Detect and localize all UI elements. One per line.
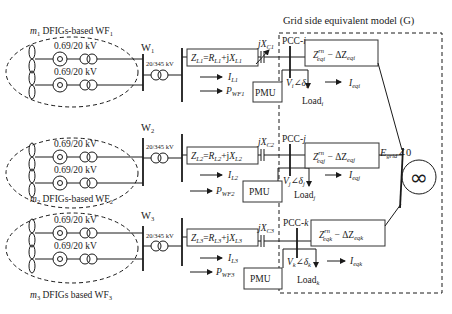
eq-current-label: Ieqk bbox=[349, 256, 362, 267]
generator-icon bbox=[53, 150, 67, 164]
wind-farm-row-2: m2 DFIGs-based WF2 0.69/20 kV 0.69/20 kV… bbox=[6, 122, 402, 208]
capacitor-label: jXC1 bbox=[256, 39, 274, 50]
generator-icon bbox=[53, 52, 67, 66]
wind-farm-row-3: m3 DFIGs based WF3 0.69/20 kV 0.69/20 kV… bbox=[6, 204, 401, 301]
step-up-transformer-icon bbox=[151, 153, 168, 163]
load-label: Loadi bbox=[302, 96, 324, 107]
wf-label: m2 DFIGs-based WF2 bbox=[30, 194, 113, 205]
load-label: Loadk bbox=[297, 275, 320, 286]
bus-label: W2 bbox=[141, 122, 154, 134]
pcc-label: PCC-j bbox=[282, 134, 306, 144]
capacitor-label: jXC3 bbox=[256, 223, 275, 234]
generator-icon bbox=[53, 252, 67, 266]
grid-model-title: Grid side equivalent model (G) bbox=[283, 15, 415, 27]
wind-turbine-icon bbox=[29, 71, 35, 99]
step-up-rating: 20/345 kV bbox=[146, 232, 174, 239]
capacitor-label: jXC2 bbox=[256, 137, 275, 148]
power-system-diagram: Grid side equivalent model (G) ∞ Egrid∠0… bbox=[0, 0, 452, 314]
generator-icon bbox=[53, 226, 67, 240]
eq-to-grid-line bbox=[385, 204, 401, 226]
line-current-label: IL2 bbox=[227, 170, 239, 181]
turbine-transformer-rating: 0.69/20 kV bbox=[54, 67, 97, 77]
transformer-icon bbox=[80, 228, 97, 238]
capacitor-icon bbox=[261, 235, 264, 247]
grid-voltage-label: Egrid∠0 bbox=[379, 147, 411, 159]
eq-current-label: Ieqj bbox=[348, 170, 360, 181]
capacitor-icon bbox=[261, 149, 264, 161]
turbine-transformer-rating: 0.69/20 kV bbox=[54, 241, 97, 251]
transformer-icon bbox=[80, 254, 97, 264]
load-label: Loadj bbox=[294, 190, 316, 201]
wind-turbine-icon bbox=[29, 245, 35, 273]
wind-turbine-icon bbox=[29, 143, 35, 171]
wind-turbine-icon bbox=[29, 45, 35, 73]
turbine-transformer-rating: 0.69/20 kV bbox=[54, 165, 97, 175]
infinite-bus-source: ∞ Egrid∠0 bbox=[379, 147, 436, 208]
transformer-icon bbox=[80, 54, 97, 64]
turbine-transformer-rating: 0.69/20 kV bbox=[54, 215, 97, 225]
wf-label: m3 DFIGs based WF3 bbox=[30, 290, 112, 301]
wind-farm-row-1: m1 DFIGs-based WF1 0.69/20 kV 0.69/20 kV… bbox=[6, 26, 402, 150]
bus-label: W3 bbox=[141, 210, 154, 222]
wind-turbine-icon bbox=[29, 169, 35, 197]
turbine-transformer-rating: 0.69/20 kV bbox=[54, 139, 97, 149]
pcc-label: PCC-i bbox=[282, 36, 306, 46]
line-current-label: IL3 bbox=[227, 253, 239, 264]
wf-power-label: PWF2 bbox=[215, 186, 235, 197]
transformer-icon bbox=[80, 80, 97, 90]
line-current-label: IL1 bbox=[227, 72, 238, 83]
eq-current-label: Ieqi bbox=[348, 78, 360, 89]
wf-power-label: PWF3 bbox=[215, 267, 235, 278]
infinity-icon: ∞ bbox=[410, 165, 428, 190]
eq-to-grid-line bbox=[378, 63, 402, 150]
generator-icon bbox=[53, 78, 67, 92]
step-up-transformer-icon bbox=[151, 241, 168, 251]
pmu-label: PMU bbox=[249, 187, 270, 197]
step-up-transformer-icon bbox=[151, 70, 168, 80]
pcc-voltage-label: Vi∠δi bbox=[286, 78, 308, 89]
transformer-icon bbox=[80, 178, 97, 188]
wind-turbine-icon bbox=[29, 219, 35, 247]
step-up-rating: 20/345 kV bbox=[146, 143, 174, 150]
pmu-label: PMU bbox=[250, 274, 271, 284]
wf-power-label: PWF1 bbox=[225, 86, 244, 97]
turbine-transformer-rating: 0.69/20 kV bbox=[54, 41, 97, 51]
bus-label: W1 bbox=[141, 42, 154, 54]
pcc-voltage-label: Vk∠δk bbox=[287, 257, 311, 268]
step-up-rating: 20/345 kV bbox=[146, 60, 174, 67]
pcc-voltage-label: Vj∠δj bbox=[283, 176, 305, 187]
transformer-icon bbox=[80, 152, 97, 162]
generator-icon bbox=[53, 176, 67, 190]
pmu-label: PMU bbox=[255, 88, 276, 98]
pcc-label: PCC-k bbox=[283, 218, 309, 228]
wf-label: m1 DFIGs-based WF1 bbox=[30, 26, 113, 37]
